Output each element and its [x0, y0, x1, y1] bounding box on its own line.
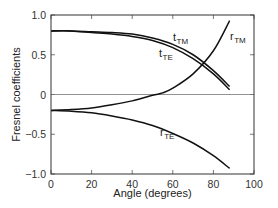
y-tick-label: −1.0	[25, 168, 46, 180]
curve-r-te	[51, 110, 230, 168]
label-r-tm: rTM	[230, 30, 246, 45]
x-tick-label: 80	[208, 178, 220, 190]
y-tick-label: −0.5	[25, 128, 46, 140]
label-t-tm: tTM	[173, 31, 188, 46]
fresnel-chart: 020406080100−1.0−0.500.51.0 tTMtTErTMrTE…	[0, 0, 278, 208]
x-tick-label: 20	[86, 178, 98, 190]
y-tick-label: 0.5	[31, 49, 46, 61]
y-tick-label: 0	[40, 89, 46, 101]
x-axis-title: Angle (degrees)	[113, 187, 191, 199]
y-tick-label: 1.0	[31, 9, 46, 21]
curve-t-te	[51, 31, 230, 90]
curve-t-tm	[51, 31, 230, 87]
y-axis-title: Fresnel coefficients	[10, 47, 22, 142]
x-tick-label: 100	[245, 178, 263, 190]
x-tick-label: 0	[48, 178, 54, 190]
label-t-te: tTE	[159, 47, 173, 62]
label-r-te: rTE	[160, 126, 174, 141]
